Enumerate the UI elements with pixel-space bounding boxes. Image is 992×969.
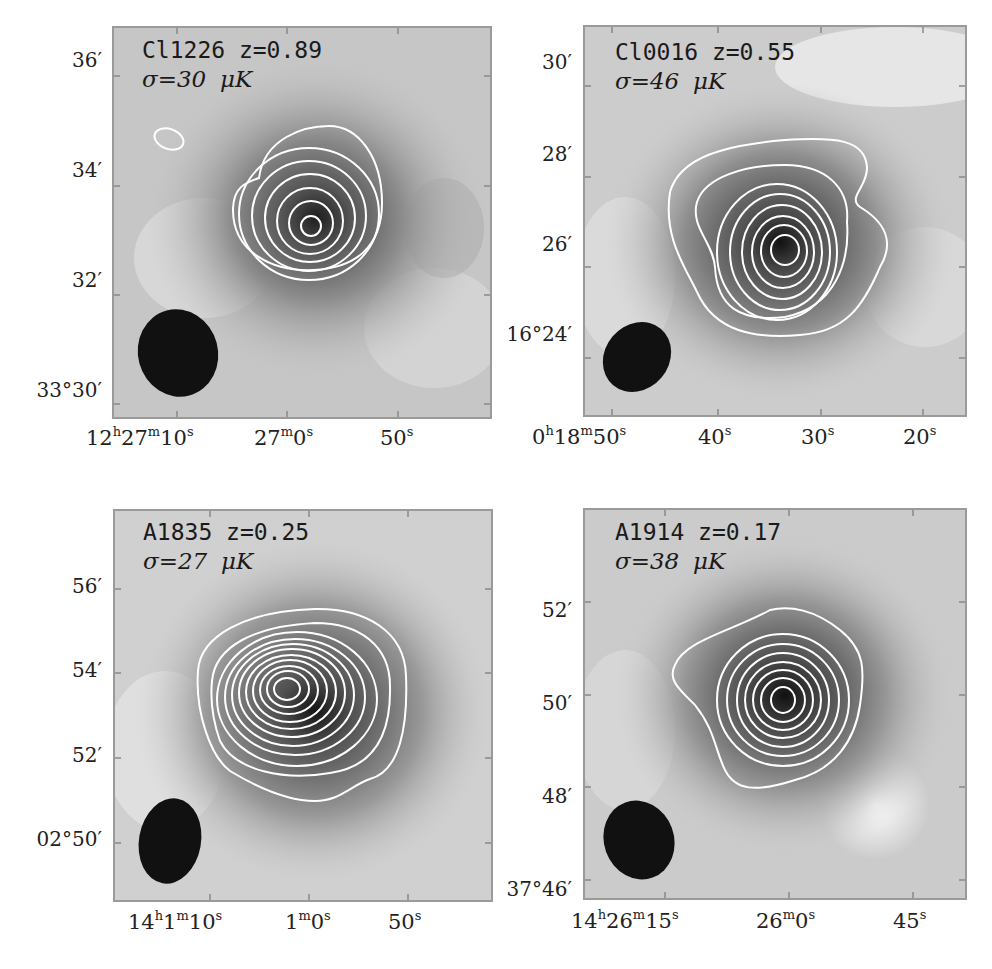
ytick-cl0016-1: 28′ bbox=[530, 142, 572, 166]
panel-title-cl0016: Cl0016 z=0.55 bbox=[615, 38, 795, 66]
ytick-a1835-1: 54′ bbox=[60, 658, 102, 682]
ytick-cl0016-2: 26′ bbox=[530, 232, 572, 256]
ytick-cl1226-1: 34′ bbox=[60, 158, 102, 182]
panel-title-a1914: A1914 z=0.17 bbox=[615, 518, 781, 546]
xtick-a1835-2: 50s bbox=[388, 908, 421, 934]
ytick-a1835-2: 52′ bbox=[60, 743, 102, 767]
ytick-cl1226-2: 32′ bbox=[60, 268, 102, 292]
ytick-cl0016-3: 16°24′ bbox=[490, 322, 572, 346]
ytick-cl1226-3: 33°30′ bbox=[20, 378, 102, 402]
noise-label-cl0016: σ=46 μK bbox=[615, 67, 725, 95]
xtick-a1835-0: 14h1m10s bbox=[128, 908, 222, 934]
xtick-cl0016-0: 0h18m50s bbox=[532, 423, 626, 449]
xtick-a1914-0: 14h26m15s bbox=[571, 907, 679, 933]
xtick-cl1226-0: 12h27m10s bbox=[86, 424, 194, 450]
xtick-cl0016-2: 30s bbox=[801, 423, 834, 449]
xtick-a1914-2: 45s bbox=[893, 907, 926, 933]
ytick-a1835-3: 02°50′ bbox=[20, 827, 102, 851]
sz-map-a1835: A1835 z=0.25 σ=27 μK bbox=[113, 509, 493, 902]
ytick-a1914-0: 52′ bbox=[530, 598, 572, 622]
noise-label-a1835: σ=27 μK bbox=[143, 547, 253, 575]
xtick-cl0016-3: 20s bbox=[903, 423, 936, 449]
ytick-a1914-2: 48′ bbox=[530, 784, 572, 808]
sz-map-cl1226: Cl1226 z=0.89 σ=30 μK bbox=[112, 26, 492, 419]
xtick-cl1226-2: 50s bbox=[380, 424, 413, 450]
sz-map-cl0016: Cl0016 z=0.55 σ=46 μK bbox=[583, 25, 967, 417]
xtick-cl1226-1: 27m0s bbox=[254, 424, 313, 450]
noise-label-cl1226: σ=30 μK bbox=[142, 65, 252, 93]
ytick-cl1226-0: 36′ bbox=[60, 48, 102, 72]
noise-label-a1914: σ=38 μK bbox=[615, 547, 725, 575]
xtick-a1914-1: 26m0s bbox=[756, 907, 815, 933]
xtick-cl0016-1: 40s bbox=[698, 423, 731, 449]
panel-title-a1835: A1835 z=0.25 bbox=[143, 518, 309, 546]
xtick-a1835-1: 1m0s bbox=[285, 908, 331, 934]
ytick-a1835-0: 56′ bbox=[60, 574, 102, 598]
panel-title-cl1226: Cl1226 z=0.89 bbox=[142, 36, 322, 64]
ytick-a1914-1: 50′ bbox=[530, 691, 572, 715]
ytick-a1914-3: 37°46′ bbox=[490, 877, 572, 901]
ytick-cl0016-0: 30′ bbox=[530, 50, 572, 74]
sz-map-a1914: A1914 z=0.17 σ=38 μK bbox=[583, 508, 967, 900]
